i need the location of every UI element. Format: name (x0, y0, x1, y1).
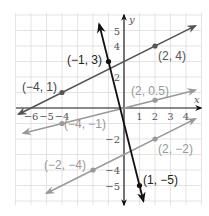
label-point-2-m2: (2, −2) (158, 142, 193, 156)
label-point-2-4: (2, 4) (158, 49, 186, 63)
label-point-m4-m1: (−4, −1) (64, 117, 106, 131)
x-tick-label: 1 (136, 111, 142, 122)
label-point-m4-1: (−4, 1) (22, 80, 57, 94)
x-tick-label: 3 (167, 111, 173, 122)
x-axis-label: x (194, 94, 200, 105)
y-tick-label: −4 (105, 165, 120, 176)
data-point (152, 43, 157, 48)
y-tick-label: 5 (114, 26, 120, 37)
x-tick-label: −5 (39, 111, 54, 122)
data-point (137, 183, 142, 188)
line-a (19, 26, 196, 114)
x-tick-label: 2 (152, 111, 158, 122)
data-point (59, 90, 64, 95)
data-point (90, 167, 95, 172)
data-point (106, 59, 111, 64)
x-tick-label: 4 (183, 111, 189, 122)
x-tick-label: −6 (24, 111, 39, 122)
label-point-1-m5: (1, −5) (143, 173, 178, 187)
y-tick-label: 2 (114, 72, 120, 83)
data-point (152, 136, 157, 141)
y-tick-label: 4 (114, 41, 120, 52)
coordinate-plane: x y −6−5−41234 542−2−4−5 (−4, 1) (2, 4) … (0, 0, 209, 216)
label-point-m1-3: (−1, 3) (67, 53, 102, 67)
label-point-m2-m4: (−2, −4) (44, 158, 86, 172)
y-tick-label: −5 (105, 181, 120, 192)
y-axis-label: y (128, 14, 135, 25)
data-point (152, 98, 157, 103)
label-point-2-05: (2, 0.5) (131, 84, 169, 98)
y-tick-label: −2 (105, 134, 120, 145)
